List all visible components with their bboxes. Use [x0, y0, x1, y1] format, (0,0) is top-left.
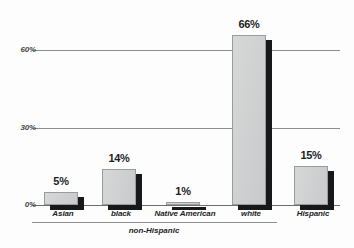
x-axis-label-white: white — [241, 209, 261, 218]
group-label-non-hispanic: non-Hispanic — [129, 226, 180, 235]
bar-asian[interactable]: 5% — [44, 192, 78, 205]
bar-value-label-white: 66% — [238, 18, 259, 30]
x-axis-label-black: black — [111, 209, 131, 218]
x-axis-label-asian: Asian — [52, 209, 73, 218]
bar-white[interactable]: 66% — [232, 35, 266, 205]
bar-value-label-hispanic: 15% — [300, 149, 321, 161]
bar-value-label-black: 14% — [108, 152, 129, 164]
group-bracket-line — [32, 222, 277, 223]
bar-face — [294, 166, 328, 205]
x-axis-label-native-american: Native American — [155, 209, 216, 218]
gridline-30 — [32, 128, 340, 129]
y-axis-tick-label-60: 60% — [21, 45, 36, 54]
bar-chart: 60% 30% 0% 5% 14% 1% 66% 15% Asian black… — [0, 0, 354, 248]
bar-hispanic[interactable]: 15% — [294, 166, 328, 205]
bar-face — [44, 192, 78, 205]
bar-face — [166, 202, 200, 205]
bar-value-label-native-american: 1% — [175, 185, 190, 197]
bar-face — [232, 35, 266, 205]
y-axis-tick-label-0: 0% — [25, 200, 36, 209]
bar-native-american[interactable]: 1% — [166, 202, 200, 205]
bar-face — [102, 169, 136, 205]
x-axis-label-hispanic: Hispanic — [297, 209, 330, 218]
y-axis-tick-label-30: 30% — [21, 123, 36, 132]
bar-value-label-asian: 5% — [53, 175, 68, 187]
bar-black[interactable]: 14% — [102, 169, 136, 205]
gridline-60 — [32, 50, 340, 51]
